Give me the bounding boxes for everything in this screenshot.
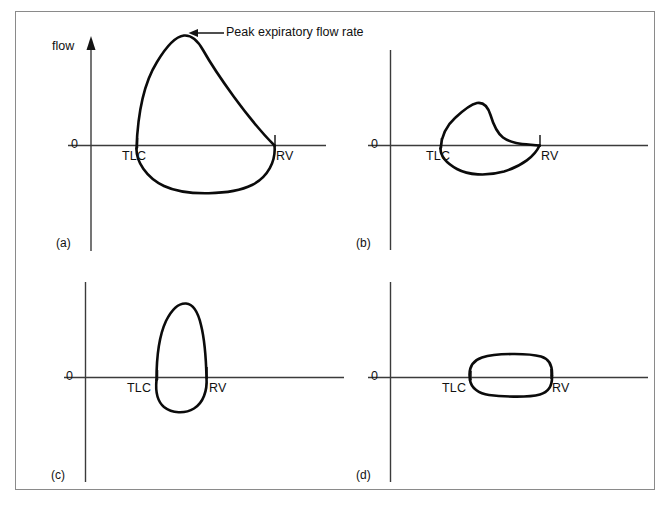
panel-a-y-axis-arrow-icon <box>87 36 96 50</box>
figure-root: flow 0 TLC RV Peak expiratory flow rate … <box>0 0 667 506</box>
panel-b-graphics <box>368 50 648 250</box>
panel-d-inspiratory-limb <box>470 376 552 397</box>
panel-a-zero-label: 0 <box>71 138 78 151</box>
panel-a-expiratory-limb <box>137 35 275 148</box>
panel-c-graphics <box>64 282 344 482</box>
panel-d-graphics <box>368 282 648 482</box>
panel-c-zero-label: 0 <box>66 370 73 383</box>
panel-a-tlc-label: TLC <box>122 150 146 163</box>
panel-c-expiratory-limb <box>157 303 207 380</box>
panel-d-expiratory-limb <box>470 354 552 380</box>
panel-c-rv-label: RV <box>209 382 227 395</box>
panel-b-rv-label: RV <box>541 150 559 163</box>
panel-b-caption: (b) <box>356 237 371 249</box>
panel-c-caption: (c) <box>51 469 65 481</box>
panel-b-tlc-label: TLC <box>426 150 450 163</box>
panel-b-expiratory-limb <box>441 103 540 149</box>
panel-b-inspiratory-limb <box>441 146 540 175</box>
panel-c-tlc-label: TLC <box>127 382 151 395</box>
panel-a-caption: (a) <box>56 237 71 249</box>
panel-b-zero-label: 0 <box>371 138 378 151</box>
panel-c-inspiratory-limb <box>156 378 206 413</box>
panel-d-zero-label: 0 <box>371 370 378 383</box>
panel-d-tlc-label: TLC <box>442 382 466 395</box>
peak-expiratory-flow-rate-callout: Peak expiratory flow rate <box>226 26 364 39</box>
panel-d-rv-label: RV <box>552 382 570 395</box>
panel-a-graphics <box>68 29 326 251</box>
panel-a-rv-label: RV <box>276 150 294 163</box>
panel-d-caption: (d) <box>356 469 371 481</box>
figure-canvas <box>0 0 667 506</box>
panel-a-inspiratory-limb <box>136 146 274 194</box>
panel-a-y-axis-label: flow <box>52 40 74 53</box>
